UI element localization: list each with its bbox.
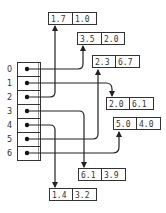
record-r2-field-a: 2.3: [95, 58, 110, 67]
arrow-1: [27, 83, 112, 96]
record-r0-field-b: 1.0: [75, 15, 90, 24]
index-label-0: 0: [7, 65, 12, 74]
record-r4: 5.0 4.0: [114, 118, 161, 130]
record-r3-field-a: 2.0: [109, 100, 124, 109]
record-r6-field-a: 1.4: [52, 191, 67, 200]
record-r0-field-a: 1.7: [51, 15, 66, 24]
record-r1-field-a: 3.5: [80, 35, 95, 44]
record-r1: 3.5 2.0: [78, 33, 125, 45]
record-r3: 2.0 6.1: [107, 98, 154, 110]
record-r1-field-b: 2.0: [104, 35, 119, 44]
index-label-3: 3: [7, 107, 12, 116]
record-r6: 1.4 3.2: [50, 189, 97, 201]
index-label-1: 1: [7, 79, 12, 88]
record-r4-field-b: 4.0: [139, 120, 154, 129]
record-r5: 6.1 3.9: [79, 169, 126, 181]
record-r2-field-b: 6.7: [118, 58, 133, 67]
index-label-5: 5: [7, 135, 12, 144]
record-r6-field-b: 3.2: [75, 191, 90, 200]
array-index-labels: 0 1 2 3 4 5 6: [7, 65, 12, 158]
index-label-6: 6: [7, 149, 12, 158]
record-boxes: 1.7 1.0 3.5 2.0 2.3 6.7 2.0 6.1 5.0 4.0: [49, 13, 161, 201]
record-r3-field-b: 6.1: [132, 100, 147, 109]
record-r4-field-a: 5.0: [116, 120, 131, 129]
record-r5-field-a: 6.1: [81, 171, 96, 180]
index-label-4: 4: [7, 121, 12, 130]
record-r0: 1.7 1.0: [49, 13, 97, 25]
pointer-array-diagram: 0 1 2 3 4 5 6: [0, 0, 166, 213]
record-r5-field-b: 3.9: [104, 171, 119, 180]
index-label-2: 2: [7, 93, 12, 102]
record-r2: 2.3 6.7: [93, 56, 140, 68]
